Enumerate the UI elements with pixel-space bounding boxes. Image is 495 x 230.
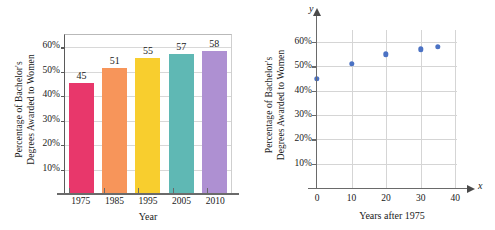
bar-column: 55 <box>135 35 160 193</box>
bar-column: 45 <box>69 35 94 193</box>
scatter-chart-y-tick-label: 40% <box>280 85 312 95</box>
scatter-data-point <box>383 52 388 57</box>
scatter-chart-x-tick-label: 10 <box>337 193 367 203</box>
x-axis-arrow-icon <box>467 185 475 193</box>
scatter-chart-x-axis-letter: x <box>478 180 482 191</box>
scatter-chart-y-tick-label: 60% <box>280 36 312 46</box>
scatter-chart-panel: Percentage of Bachelor's Degrees Awarded… <box>248 0 495 230</box>
scatter-chart-y-axis-line <box>316 14 317 189</box>
scatter-chart-y-axis-label-line1: Percentage of Bachelor's <box>264 20 276 190</box>
bar-chart-y-axis-label-line1: Percentage of Bachelor's <box>14 27 26 192</box>
bar-chart-x-tick-label: 1985 <box>99 196 129 210</box>
scatter-chart-x-tick-label: 30 <box>406 193 436 203</box>
bar-rect <box>102 68 127 193</box>
y-axis-arrow-icon <box>313 8 321 16</box>
bar-value-label: 55 <box>143 45 153 56</box>
scatter-chart-x-tick-mark <box>104 188 105 193</box>
bar-value-label: 45 <box>77 70 87 81</box>
bar-column: 57 <box>169 35 194 193</box>
scatter-chart-x-tick-label: 20 <box>371 193 401 203</box>
scatter-chart-x-tick-label: 40 <box>440 193 470 203</box>
scatter-chart-y-tick-label: 20% <box>280 133 312 143</box>
scatter-chart-x-axis-line <box>308 188 469 189</box>
bar-chart-x-tick-label: 2010 <box>200 196 230 210</box>
bar-chart-y-tick-label: 50% <box>28 65 60 75</box>
bar-chart-x-tick-label: 1995 <box>133 196 163 210</box>
bar-chart-baseline <box>57 193 239 195</box>
bar-chart-y-tick-label: 30% <box>28 114 60 124</box>
bar-rect <box>202 51 227 193</box>
scatter-chart-y-tick-label: 50% <box>280 60 312 70</box>
scatter-chart-y-tick-label: 30% <box>280 109 312 119</box>
two-panel-figure: Percentage of Bachelor's Degrees Awarded… <box>0 0 495 230</box>
scatter-chart-gridline-vertical <box>455 30 456 188</box>
bar-chart-x-tick-label: 1975 <box>66 196 96 210</box>
bar-chart-y-tick-label: 40% <box>28 89 60 99</box>
bar-chart-y-tick-label: 20% <box>28 138 60 148</box>
scatter-chart-gridline-vertical <box>352 30 353 188</box>
scatter-data-point <box>418 47 423 52</box>
bar-value-label: 51 <box>110 55 120 66</box>
bar-value-label: 57 <box>176 41 186 52</box>
bar-chart-y-tick-label: 10% <box>28 163 60 173</box>
scatter-chart-x-tick-label: 0 <box>302 193 332 203</box>
bar-rect <box>169 54 194 193</box>
scatter-data-point <box>435 44 440 49</box>
scatter-chart-y-tick-label: 10% <box>280 158 312 168</box>
scatter-chart-x-axis-title: Years after 1975 <box>312 210 472 221</box>
bar-rect <box>69 83 94 193</box>
bar-column: 51 <box>102 35 127 193</box>
scatter-chart-gridline-vertical <box>421 30 422 188</box>
bar-chart-plot-area: 4551555758 <box>64 34 232 193</box>
bar-chart-x-tick-labels: 19751985199520052010 <box>64 196 232 210</box>
bar-value-label: 58 <box>209 38 219 49</box>
scatter-chart-x-tick-mark <box>69 188 70 193</box>
bar-rect <box>135 58 160 193</box>
scatter-chart-x-tick-mark <box>138 188 139 193</box>
scatter-chart-x-tick-mark <box>207 188 208 193</box>
bar-chart-series: 4551555758 <box>65 35 231 193</box>
bar-column: 58 <box>202 35 227 193</box>
bar-chart-x-axis-title: Year <box>64 211 232 222</box>
bar-chart-y-tick-label: 60% <box>28 40 60 50</box>
bar-chart-x-tick-label: 2005 <box>167 196 197 210</box>
scatter-chart-plot-area <box>317 30 457 188</box>
scatter-chart-x-tick-mark <box>173 188 174 193</box>
scatter-chart-y-axis-letter: y <box>309 3 313 14</box>
bar-chart-panel: Percentage of Bachelor's Degrees Awarded… <box>0 0 248 230</box>
